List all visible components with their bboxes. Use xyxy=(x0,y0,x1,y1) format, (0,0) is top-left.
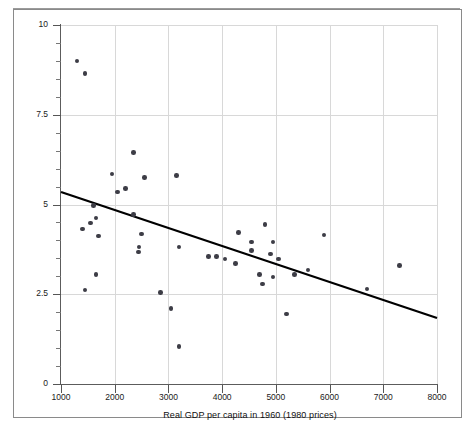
x-axis-tick-label: 6000 xyxy=(320,392,339,402)
data-point xyxy=(115,190,120,195)
data-point xyxy=(136,250,141,255)
data-point xyxy=(123,186,128,191)
data-point xyxy=(80,227,85,232)
data-point xyxy=(263,222,268,227)
y-axis-tick-label: 7.5 xyxy=(0,109,52,119)
x-gridline xyxy=(437,25,438,384)
x-axis-tick-label: 8000 xyxy=(428,392,447,402)
data-point xyxy=(139,232,144,237)
x-axis-tick-label: 5000 xyxy=(266,392,285,402)
plot-area xyxy=(61,25,437,384)
x-axis-tick-label: 4000 xyxy=(213,392,232,402)
x-axis-tick-label: 1000 xyxy=(52,392,71,402)
data-point xyxy=(206,254,211,259)
y-axis-tick xyxy=(53,205,61,206)
trendline-svg xyxy=(61,25,437,384)
data-point xyxy=(214,254,219,259)
x-axis-title-text: Real GDP per capita in 1960 (1980 prices… xyxy=(163,410,337,420)
y-axis-tick xyxy=(53,25,61,26)
x-axis-tick-label: 7000 xyxy=(374,392,393,402)
y-axis-tick xyxy=(53,115,61,116)
data-point xyxy=(131,150,136,155)
data-point xyxy=(94,272,99,277)
data-point xyxy=(131,212,136,217)
y-axis-tick-label: 10 xyxy=(0,19,52,29)
data-point xyxy=(268,252,273,257)
x-axis-tick-label: 3000 xyxy=(159,392,178,402)
x-axis-title: Real GDP per capita in 1960 (1980 prices… xyxy=(0,410,466,420)
data-point xyxy=(292,272,297,277)
data-point xyxy=(249,248,254,253)
data-point xyxy=(142,175,147,180)
data-point xyxy=(236,230,241,235)
x-axis-tick-label: 2000 xyxy=(105,392,124,402)
data-point xyxy=(257,272,262,277)
y-axis-tick xyxy=(53,384,61,385)
data-point xyxy=(284,312,289,317)
x-axis-line xyxy=(60,384,438,385)
data-point xyxy=(158,290,163,295)
y-axis-tick-label: 2.5 xyxy=(0,288,52,298)
data-point xyxy=(233,261,238,266)
regression-trendline xyxy=(61,192,437,318)
scatter-plot-figure: Growth rate of real GDP, 1960–85 (% per … xyxy=(0,0,466,438)
y-axis-tick-label: 0 xyxy=(0,378,52,388)
data-point xyxy=(397,263,402,268)
data-point xyxy=(174,173,179,178)
data-point xyxy=(91,203,96,208)
data-point xyxy=(177,344,182,349)
y-axis-tick xyxy=(53,294,61,295)
y-axis-tick-label: 5 xyxy=(0,199,52,209)
